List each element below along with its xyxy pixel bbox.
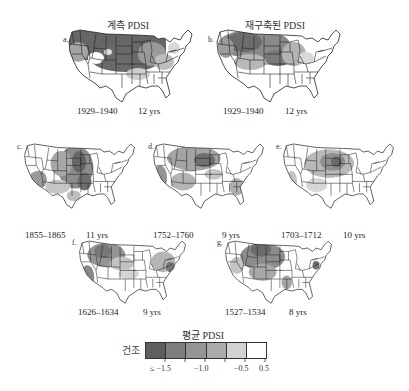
legend-color-bar: [145, 342, 267, 359]
panel-f-letter: f.: [72, 238, 77, 247]
legend-side-label: 건조: [122, 342, 140, 357]
panel-e-duration: 10 yrs: [343, 230, 365, 240]
legend-title: 평균 PDSI: [182, 327, 224, 342]
map-panel-g: [223, 238, 335, 308]
panel-c-period: 1855–1865: [25, 230, 66, 240]
panel-g-period: 1527–1534: [225, 307, 266, 317]
legend-swatch-1: [146, 343, 166, 358]
legend-tick-neg05: −0.5: [234, 364, 249, 373]
legend-tick-marks: [145, 358, 267, 363]
panel-f-period: 1626–1634: [78, 307, 119, 317]
panel-a-duration: 12 yrs: [138, 106, 160, 116]
legend-tick-neg1: −1.0: [194, 364, 209, 373]
panel-a-period: 1929–1940: [77, 106, 118, 116]
panel-b-duration: 12 yrs: [285, 106, 307, 116]
panel-g-duration: 8 yrs: [289, 307, 307, 317]
map-panel-d: [151, 141, 267, 213]
legend-swatch-6: [247, 343, 266, 358]
map-panel-f: [77, 238, 189, 308]
panel-f-duration: 9 yrs: [143, 307, 161, 317]
map-panel-a: [66, 28, 196, 106]
legend-swatch-2: [166, 343, 186, 358]
legend-tick-pos05: 0.5: [259, 364, 269, 373]
legend-tick-min: ≤ −1.5: [150, 364, 171, 373]
legend-swatch-3: [186, 343, 206, 358]
legend-swatch-5: [227, 343, 247, 358]
map-panel-e: [281, 141, 397, 213]
legend-swatch-4: [207, 343, 227, 358]
map-panel-b: [214, 28, 344, 106]
map-panel-c: [22, 141, 138, 213]
panel-b-period: 1929–1940: [223, 106, 264, 116]
